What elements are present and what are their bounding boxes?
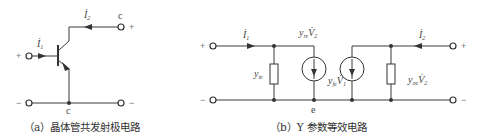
current-arrow-i2 — [84, 24, 92, 30]
plus-sign: + — [461, 41, 466, 51]
plus-sign: + — [16, 51, 21, 61]
label-yoe-v2: yoeV̇2 — [407, 74, 427, 86]
output-terminal-top — [450, 43, 456, 49]
input-terminal-bottom — [210, 97, 216, 103]
current-arrow-i1 — [247, 43, 255, 49]
label-yie: yie — [253, 68, 263, 80]
output-terminal-bottom — [450, 97, 456, 103]
label-i1: İ1 — [242, 29, 249, 41]
minus-sign: − — [16, 98, 21, 108]
output-terminal-top — [118, 24, 124, 30]
input-terminal-top — [210, 43, 216, 49]
minus-sign: − — [129, 98, 134, 108]
output-terminal-bottom — [118, 100, 124, 106]
label-i2: İ2 — [83, 9, 90, 21]
node-label-c: c — [118, 10, 123, 21]
current-source-yfe: yfeV̇1 — [327, 46, 364, 102]
current-source-yre: yreV̇2 — [298, 27, 326, 102]
minus-sign: − — [461, 95, 466, 105]
current-arrow-i2 — [414, 43, 422, 49]
minus-sign: − — [200, 95, 205, 105]
caption-a: （a）晶体管共发射极电路 — [24, 121, 141, 133]
node-label-e: e — [311, 104, 316, 115]
node-label-e: c — [66, 105, 71, 116]
transistor-ce-circuit: + İ1 İ2 c + − c − （a）晶体管共发射极电路 — [16, 9, 141, 133]
input-terminal-bottom — [26, 100, 32, 106]
caption-b: （b）Y 参数等效电路 — [270, 121, 368, 133]
plus-sign: + — [200, 41, 205, 51]
label-i2: İ2 — [418, 29, 425, 41]
input-terminal-top — [26, 53, 32, 59]
plus-sign: + — [129, 22, 134, 32]
current-arrow-i1 — [38, 53, 46, 59]
resistor-yoe: yoeV̇2 — [387, 44, 427, 102]
y-parameter-equivalent-circuit: + − İ1 İ2 + − e yie — [200, 27, 466, 133]
label-yre-v2: yreV̇2 — [298, 27, 317, 39]
resistor-yie: yie — [253, 44, 278, 102]
label-i1: İ1 — [36, 38, 43, 50]
